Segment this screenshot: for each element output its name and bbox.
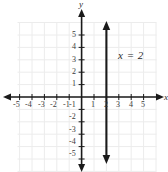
line-x-equals-2 [103, 21, 111, 164]
coordinate-plane-graph: -5 -4 -3 -2 -1 1 2 3 4 5 5 4 3 2 1 -1 -2… [0, 0, 168, 172]
x-tick-label-2: 2 [104, 101, 108, 109]
y-tick-label--2: -2 [69, 113, 76, 121]
y-tick-label--5: -5 [69, 150, 76, 158]
x-tick-label--5: -5 [13, 101, 20, 109]
y-tick-label-4: 4 [72, 43, 76, 51]
x-tick-label-5: 5 [141, 101, 145, 109]
graph-canvas [0, 0, 168, 172]
x-tick-label-3: 3 [116, 101, 120, 109]
y-tick-label-1: 1 [72, 80, 76, 88]
y-tick-label-3: 3 [72, 56, 76, 64]
x-tick-label--2: -2 [50, 101, 57, 109]
y-tick-label--1: -1 [69, 101, 76, 109]
y-axis [78, 9, 85, 172]
x-tick-label-1: 1 [91, 101, 95, 109]
y-tick-label-5: 5 [72, 31, 76, 39]
x-tick-label--3: -3 [38, 101, 45, 109]
y-tick-label-2: 2 [72, 68, 76, 76]
x-axis-label: x [164, 93, 168, 102]
equation-label: x = 2 [118, 50, 144, 61]
y-tick-label--3: -3 [69, 126, 76, 134]
x-tick-label--4: -4 [25, 101, 32, 109]
y-axis-label: y [79, 0, 83, 9]
y-tick-label--4: -4 [69, 138, 76, 146]
x-tick-label-4: 4 [129, 101, 133, 109]
